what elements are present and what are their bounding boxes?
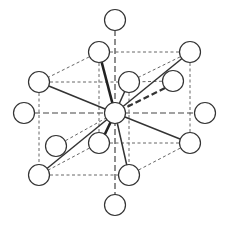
atom-cube-bottom-front-right [180,133,201,154]
atom-cube-top-front-left [89,42,110,63]
atom-cube-top-back-left [29,72,50,93]
atom-cube-top-back-mid [119,72,140,93]
atom-top [105,10,126,31]
atom-cube-bottom-back-mid [119,165,140,186]
atom-cube-bottom-back-left [29,165,50,186]
atom-cube-top-front-right [180,42,201,63]
atom-center [105,103,126,124]
atom-inner-left [46,136,67,157]
atom-cube-bottom-front-mid [89,133,110,154]
atom-inner-right [163,71,184,92]
crystal-lattice-diagram [0,0,225,230]
atom-far-right [195,103,216,124]
atom-bottom [105,195,126,216]
atom-far-left [14,103,35,124]
